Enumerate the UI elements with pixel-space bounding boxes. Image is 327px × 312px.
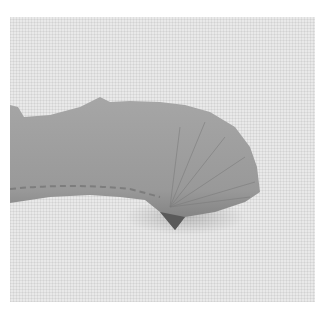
ribbon-illustration <box>10 17 315 302</box>
fabric-photo <box>10 17 315 302</box>
